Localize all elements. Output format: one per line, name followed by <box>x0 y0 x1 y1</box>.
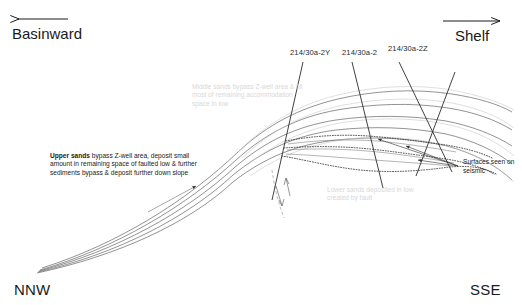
seismic-horizon-upper <box>286 135 492 158</box>
lower-sands-annotation: Lower sands deposited in low created by … <box>327 186 433 203</box>
cross-section-figure: Basinward Shelf NNW SSE 214/30a-2Y 214/3… <box>0 0 522 305</box>
nnw-label: NNW <box>14 281 50 298</box>
stratal-surfaces-solid <box>37 91 512 273</box>
well-label-2: 214/30a-2 <box>342 48 377 57</box>
surface-upper-mid <box>39 116 512 271</box>
upper-sands-leader <box>148 186 196 212</box>
seismic-surfaces-annotation: Surfaces seen on seismic <box>463 158 519 175</box>
upper-sands-lead: Upper sands <box>50 152 90 159</box>
sse-label: SSE <box>470 281 501 298</box>
fault-plane <box>272 170 290 218</box>
well-track-2 <box>352 62 383 188</box>
well-label-2Z: 214/30a-2Z <box>388 44 428 53</box>
upper-sands-annotation: Upper sands bypass Z-well area, deposit … <box>50 152 200 177</box>
shelf-label: Shelf <box>455 27 489 44</box>
seismic-leader-lines <box>378 139 458 166</box>
well-label-2Y: 214/30a-2Y <box>290 48 330 57</box>
middle-sands-annotation: Middle sands bypass Z-well area & fill m… <box>192 83 312 108</box>
basinward-label: Basinward <box>12 25 82 42</box>
